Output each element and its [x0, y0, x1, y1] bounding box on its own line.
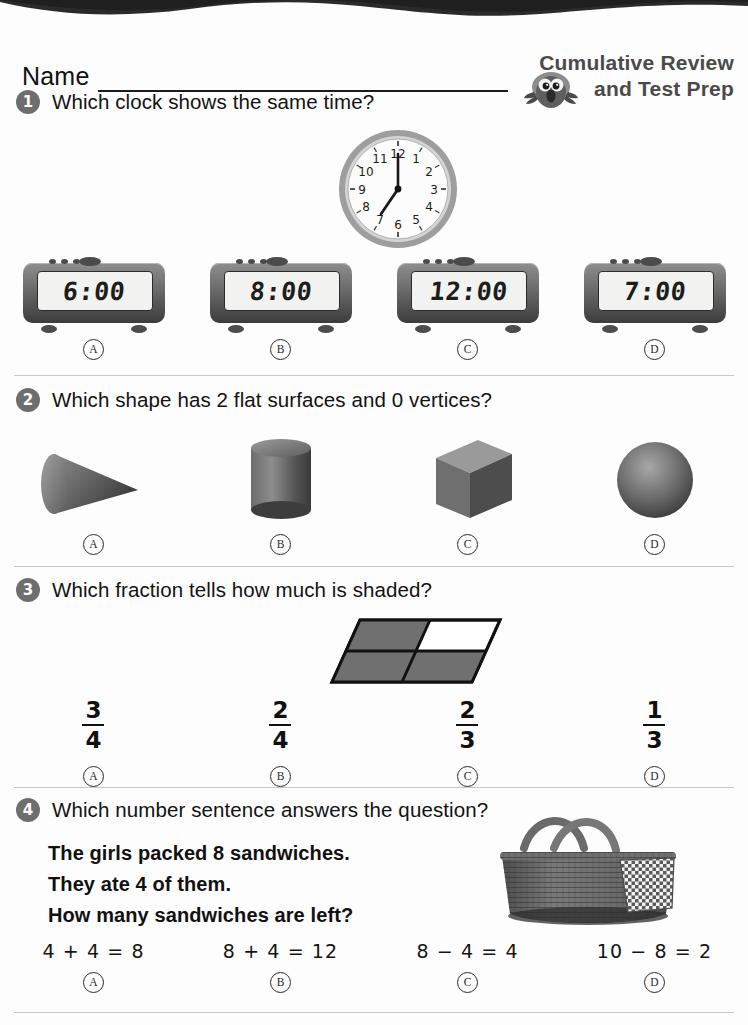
option-mark[interactable]: D [644, 534, 665, 555]
fraction-bar [643, 724, 665, 726]
digital-clock: 12:00 [393, 255, 543, 333]
choice-option[interactable]: 6:00 A [0, 255, 187, 360]
option-mark[interactable]: A [83, 534, 104, 555]
choice-option[interactable]: 10 − 8 = 2 D [561, 940, 748, 993]
page-header: Name Cumulative Revie [0, 24, 748, 88]
svg-text:9: 9 [358, 183, 366, 197]
svg-text:4: 4 [425, 200, 433, 214]
choice-option[interactable]: 7:00 D [561, 255, 748, 360]
digital-clock: 8:00 [206, 255, 356, 333]
number-sentence: 8 + 4 = 12 [223, 940, 338, 962]
fraction-numerator: 2 [456, 698, 478, 722]
option-mark[interactable]: C [457, 972, 478, 993]
question-1-header: 1 Which clock shows the same time? [16, 90, 374, 114]
choice-option[interactable]: 8:00 B [187, 255, 374, 360]
word-problem-line: How many sandwiches are left? [48, 900, 353, 931]
name-label: Name [22, 62, 90, 91]
option-mark[interactable]: C [457, 534, 478, 555]
option-mark[interactable]: B [270, 766, 291, 787]
fraction-bar [269, 724, 291, 726]
choice-option[interactable]: 8 + 4 = 12 B [187, 940, 374, 993]
question-3-choices: 3 4 A 2 4 B 2 3 C 1 [0, 698, 748, 787]
option-mark[interactable]: B [270, 534, 291, 555]
question-2-header: 2 Which shape has 2 flat surfaces and 0 … [16, 388, 492, 412]
option-mark[interactable]: D [644, 766, 665, 787]
option-mark[interactable]: B [270, 972, 291, 993]
choice-option[interactable]: D [561, 428, 748, 555]
question-2-prompt: Which shape has 2 flat surfaces and 0 ve… [52, 388, 492, 412]
svg-text:11: 11 [372, 152, 387, 166]
fraction-value: 2 4 [269, 698, 291, 752]
digital-clock: 7:00 [580, 255, 730, 333]
option-mark[interactable]: A [83, 972, 104, 993]
section-divider [14, 566, 734, 567]
question-4-header: 4 Which number sentence answers the ques… [16, 798, 488, 822]
number-sentence: 8 − 4 = 4 [416, 940, 518, 962]
svg-text:7: 7 [376, 213, 384, 227]
cube-shape [408, 428, 528, 528]
section-divider [14, 787, 734, 788]
analog-clock-figure: 12 1 2 3 4 5 6 7 8 9 10 11 [337, 128, 459, 250]
choice-option[interactable]: C [374, 428, 561, 555]
question-3-prompt: Which fraction tells how much is shaded? [52, 578, 432, 602]
word-problem-line: The girls packed 8 sandwiches. [48, 838, 353, 869]
question-number-badge: 2 [16, 388, 40, 412]
svg-text:3: 3 [430, 183, 438, 197]
option-mark[interactable]: A [83, 339, 104, 360]
choice-option[interactable]: B [187, 428, 374, 555]
option-mark[interactable]: B [270, 339, 291, 360]
question-number-badge: 3 [16, 578, 40, 602]
choice-option[interactable]: 4 + 4 = 8 A [0, 940, 187, 993]
brand-title: Cumulative Review and Test Prep [520, 50, 734, 102]
fraction-denominator: 3 [456, 728, 478, 752]
svg-text:2: 2 [425, 165, 433, 179]
svg-text:6: 6 [394, 218, 402, 232]
word-problem-text: The girls packed 8 sandwiches. They ate … [48, 838, 353, 931]
choice-option[interactable]: 2 3 C [374, 698, 561, 787]
picnic-basket-photo [488, 808, 732, 936]
top-wave-decoration [0, 0, 748, 22]
svg-text:10: 10 [358, 165, 373, 179]
question-2-choices: A B [0, 428, 748, 555]
question-number-badge: 4 [16, 798, 40, 822]
choice-option[interactable]: 2 4 B [187, 698, 374, 787]
fraction-denominator: 4 [269, 728, 291, 752]
option-mark[interactable]: C [457, 766, 478, 787]
worksheet-page: Name Cumulative Revie [0, 0, 748, 1025]
choice-option[interactable]: 1 3 D [561, 698, 748, 787]
fraction-bar [456, 724, 478, 726]
fraction-bar [82, 724, 104, 726]
question-4-choices: 4 + 4 = 8 A 8 + 4 = 12 B 8 − 4 = 4 C 10 … [0, 940, 748, 993]
option-mark[interactable]: C [457, 339, 478, 360]
fraction-value: 2 3 [456, 698, 478, 752]
sphere-shape [595, 428, 715, 528]
fraction-numerator: 3 [82, 698, 104, 722]
question-3-header: 3 Which fraction tells how much is shade… [16, 578, 432, 602]
digital-clock-time: 7:00 [623, 279, 688, 304]
choice-option[interactable]: 3 4 A [0, 698, 187, 787]
digital-clock-time: 8:00 [249, 279, 314, 304]
number-sentence: 4 + 4 = 8 [42, 940, 144, 962]
brand-line-2: and Test Prep [520, 76, 734, 102]
choice-option[interactable]: 12:00 C [374, 255, 561, 360]
option-mark[interactable]: D [644, 972, 665, 993]
brand-line-1: Cumulative Review [539, 51, 734, 74]
cone-shape [34, 428, 154, 528]
question-1-prompt: Which clock shows the same time? [52, 90, 374, 114]
choice-option[interactable]: A [0, 428, 187, 555]
number-sentence: 10 − 8 = 2 [597, 940, 712, 962]
fraction-numerator: 2 [269, 698, 291, 722]
option-mark[interactable]: A [83, 766, 104, 787]
option-mark[interactable]: D [644, 339, 665, 360]
choice-option[interactable]: 8 − 4 = 4 C [374, 940, 561, 993]
bottom-divider [14, 1012, 734, 1013]
fraction-denominator: 4 [82, 728, 104, 752]
question-number-badge: 1 [16, 90, 40, 114]
digital-clock: 6:00 [19, 255, 169, 333]
cylinder-shape [221, 428, 341, 528]
fraction-value: 3 4 [82, 698, 104, 752]
question-4-prompt: Which number sentence answers the questi… [52, 798, 488, 822]
digital-clock-time: 6:00 [62, 279, 127, 304]
brand-block: Cumulative Review and Test Prep [508, 50, 740, 112]
word-problem-line: They ate 4 of them. [48, 869, 353, 900]
